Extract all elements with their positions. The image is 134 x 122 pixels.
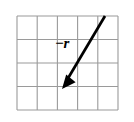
grid-horizontal-lines xyxy=(17,16,118,110)
vector-arrow-shaft xyxy=(69,16,106,78)
vector-diagram-figure: −r xyxy=(0,0,134,122)
figure-canvas xyxy=(0,0,134,122)
vector-label-minus-r: −r xyxy=(55,35,69,52)
vector-arrow-group xyxy=(62,16,105,89)
grid-group xyxy=(17,16,118,110)
